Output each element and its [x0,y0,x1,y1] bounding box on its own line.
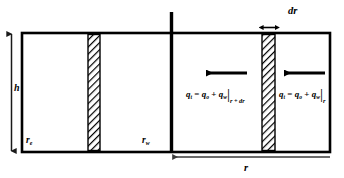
radial-flow-diagram: h re rw dr r qt = qo + qw|r + dr qt = qo… [0,0,344,178]
eq-right-evaluated-at: r [323,97,325,104]
eq-left-equals: = [192,89,202,99]
external-radius-label: re [26,136,32,146]
eq-right-lhs-sub: t [284,94,286,100]
eq-left-lhs-base: q [186,89,191,99]
element-thickness-label: dr [288,6,297,17]
hatched-band-left [88,35,100,151]
hatched-band-right [262,35,275,151]
flow-equation-inner: qt = qo + qw|r + dr [186,85,245,100]
eq-left-evaluated-at: r + dr [230,97,245,104]
wellbore-radius-subscript: w [146,140,150,146]
eq-right-equals: = [285,89,295,99]
eq-right-lhs-base: q [279,89,284,99]
wellbore-radius-label: rw [142,136,150,146]
height-label: h [14,83,20,93]
eq-right-plus: + [302,89,312,99]
eq-left-lhs-sub: t [191,94,193,100]
flow-equation-outer: qt = qo + qw|r [279,85,325,100]
eq-left-plus: + [209,89,219,99]
external-radius-subscript: e [30,140,33,146]
eq-right-term1-sub: o [299,94,302,100]
radius-label: r [244,163,248,174]
eq-left-term1-sub: o [206,94,209,100]
